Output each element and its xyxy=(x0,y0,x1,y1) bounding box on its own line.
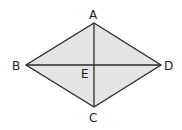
vertex-label-c: C xyxy=(89,111,97,125)
rhombus-diagram: A B D C E xyxy=(0,0,182,130)
intersection-label-e: E xyxy=(81,67,89,81)
vertex-label-a: A xyxy=(89,8,98,22)
vertex-label-b: B xyxy=(12,59,20,73)
vertex-label-d: D xyxy=(164,59,173,73)
